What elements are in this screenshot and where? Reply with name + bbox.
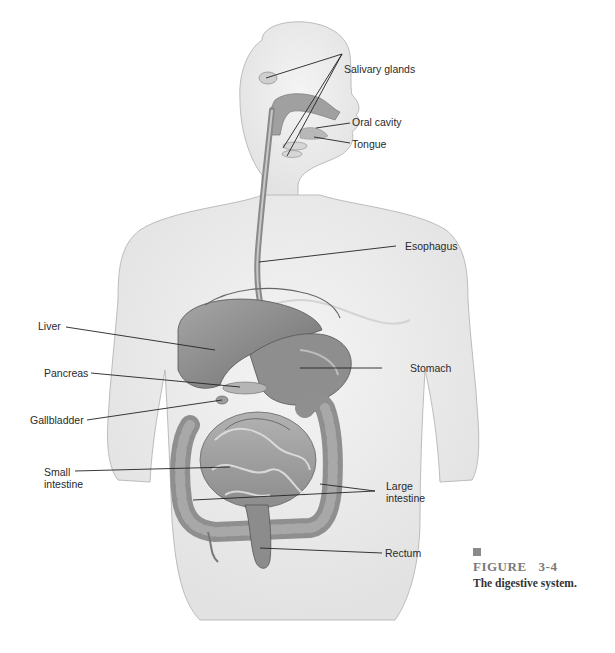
label-small-intestine: Small intestine: [44, 466, 104, 490]
label-liver: Liver: [38, 320, 61, 332]
caption-square-marker: [473, 548, 481, 556]
label-esophagus: Esophagus: [405, 240, 458, 252]
label-salivary-glands: Salivary glands: [344, 63, 415, 75]
label-large-intestine: Large intestine: [386, 480, 434, 504]
label-stomach: Stomach: [410, 362, 451, 374]
pancreas-shape: [223, 382, 267, 394]
label-rectum: Rectum: [385, 547, 421, 559]
figure-label: FIGURE: [473, 559, 527, 574]
label-oral-cavity: Oral cavity: [352, 116, 402, 128]
label-gallbladder: Gallbladder: [30, 414, 84, 426]
label-tongue: Tongue: [352, 138, 386, 150]
figure-number-value: 3-4: [539, 559, 558, 574]
figure-description: The digestive system.: [473, 577, 577, 589]
small-intestine-shape: [200, 412, 316, 508]
figure-caption: FIGURE3-4 The digestive system.: [473, 548, 577, 589]
salivary-gland-shape: [259, 72, 277, 84]
label-pancreas: Pancreas: [44, 367, 88, 379]
figure-number: FIGURE3-4: [473, 559, 577, 575]
